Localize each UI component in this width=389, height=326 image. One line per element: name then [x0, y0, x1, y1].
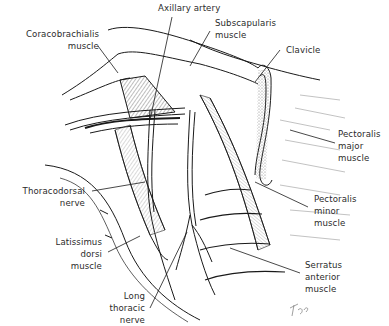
label-subscapularis-muscle: Subscapularis muscle: [215, 17, 276, 41]
subscapularis: [115, 125, 168, 260]
label-line: thoracic: [100, 302, 145, 314]
label-line: anterior: [305, 271, 342, 283]
anatomy-figure: Axillary artery Coracobrachialis muscle …: [0, 0, 389, 326]
label-serratus-anterior-muscle: Serratus anterior muscle: [305, 259, 342, 295]
label-long-thoracic-nerve: Long thoracic nerve: [100, 290, 145, 326]
serratus-ribs: [200, 189, 285, 280]
label-line: Coracobrachialis: [15, 28, 99, 40]
leader-pectoralis-minor: [255, 182, 308, 207]
label-line: muscle: [338, 152, 381, 164]
label-line: nerve: [100, 314, 145, 326]
label-line: muscle: [314, 217, 357, 229]
artist-signature: [290, 304, 308, 316]
label-line: Axillary artery: [158, 2, 220, 14]
label-thoracodorsal-nerve: Thoracodorsal nerve: [15, 185, 85, 209]
label-line: muscle: [305, 283, 342, 295]
label-line: Long: [100, 290, 145, 302]
label-pectoralis-minor-muscle: Pectoralis minor muscle: [314, 193, 357, 229]
label-line: Serratus: [305, 259, 342, 271]
label-line: Pectoralis: [338, 128, 381, 140]
label-pectoralis-major-muscle: Pectoralis major muscle: [338, 128, 381, 164]
leader-serratus: [230, 248, 300, 273]
leader-long-thoracic: [150, 232, 187, 308]
label-line: muscle: [215, 29, 276, 41]
label-line: Subscapularis: [215, 17, 276, 29]
leader-pectoralis-major: [290, 130, 335, 143]
label-line: muscle: [15, 40, 99, 52]
label-line: Pectoralis: [314, 193, 357, 205]
label-line: nerve: [15, 197, 85, 209]
leader-subscapularis: [190, 31, 210, 66]
label-line: muscle: [30, 260, 102, 272]
label-line: Thoracodorsal: [15, 185, 85, 197]
label-line: major: [338, 140, 381, 152]
nerves: [148, 110, 215, 300]
label-clavicle: Clavicle: [286, 44, 320, 56]
leader-coracobrachialis: [98, 46, 118, 73]
label-latissimus-dorsi-muscle: Latissimus dorsi muscle: [30, 236, 102, 272]
label-line: minor: [314, 205, 357, 217]
label-line: Latissimus: [30, 236, 102, 248]
label-coracobrachialis-muscle: Coracobrachialis muscle: [15, 28, 99, 52]
label-axillary-artery: Axillary artery: [158, 2, 220, 14]
label-line: dorsi: [30, 248, 102, 260]
label-line: Clavicle: [286, 44, 320, 56]
